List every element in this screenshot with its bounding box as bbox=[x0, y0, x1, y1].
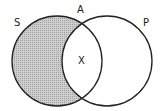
label-p: P bbox=[143, 17, 149, 28]
label-s: S bbox=[14, 17, 20, 28]
label-x: X bbox=[78, 55, 85, 66]
label-a: A bbox=[77, 4, 84, 15]
venn-diagram: S A P X bbox=[0, 0, 163, 111]
